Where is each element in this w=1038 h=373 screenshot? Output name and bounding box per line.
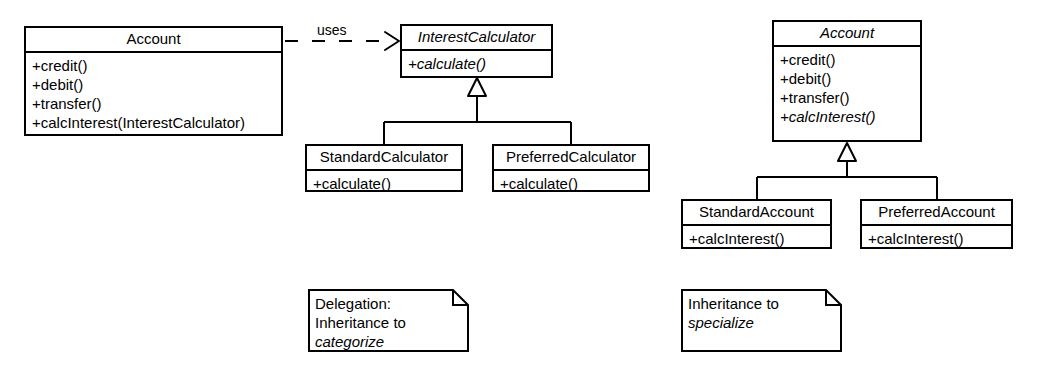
operation-transfer: +transfer() [780, 88, 915, 107]
operation-calcinterest: +calcInterest() [868, 229, 1006, 248]
generalization-hollow-triangle [838, 143, 856, 161]
class-box-account-inheritance[interactable]: Account +credit() +debit() +transfer() +… [772, 20, 922, 142]
generalization-calculators [384, 78, 571, 144]
dependency-open-arrowhead [385, 32, 399, 50]
note-delegation[interactable]: Delegation: Inheritance to categorize [308, 289, 469, 352]
generalization-hollow-triangle [468, 78, 486, 96]
operation-credit: +credit() [780, 50, 915, 69]
operation-transfer: +transfer() [32, 94, 276, 113]
generalization-accounts [757, 143, 937, 200]
note-line-1: Inheritance to [688, 294, 834, 313]
class-box-interestcalculator[interactable]: InterestCalculator +calculate() [400, 24, 553, 78]
note-line-2: specialize [688, 313, 834, 332]
class-name-preferredaccount: PreferredAccount [862, 201, 1011, 226]
operation-calcinterest: +calcInterest() [780, 107, 915, 126]
note-inheritance[interactable]: Inheritance to specialize [681, 289, 842, 352]
note-line-3: categorize [315, 332, 461, 351]
class-box-standardcalculator[interactable]: StandardCalculator +calculate() [305, 144, 463, 192]
class-box-account-delegation[interactable]: Account +credit() +debit() +transfer() +… [24, 26, 283, 136]
class-operations-standardcalculator: +calculate() [307, 171, 461, 197]
class-operations-account: +credit() +debit() +transfer() +calcInte… [774, 47, 920, 130]
operation-debit: +debit() [780, 69, 915, 88]
operation-credit: +credit() [32, 56, 276, 75]
class-operations-standardaccount: +calcInterest() [683, 226, 830, 252]
class-name-preferredcalculator: PreferredCalculator [494, 146, 648, 171]
note-line-1: Delegation: [315, 294, 461, 313]
class-name-standardcalculator: StandardCalculator [307, 146, 461, 171]
class-operations-interestcalculator: +calculate() [402, 51, 551, 77]
operation-calcinterest: +calcInterest(InterestCalculator) [32, 113, 276, 132]
class-box-preferredcalculator[interactable]: PreferredCalculator +calculate() [492, 144, 650, 192]
operation-debit: +debit() [32, 75, 276, 94]
operation-calcinterest: +calcInterest() [689, 229, 825, 248]
class-name-account: Account [26, 28, 281, 53]
uml-diagram-canvas: Account +credit() +debit() +transfer() +… [0, 0, 1038, 373]
operation-calculate: +calculate() [500, 174, 643, 193]
edge-label-uses: uses [317, 22, 347, 38]
class-name-standardaccount: StandardAccount [683, 201, 830, 226]
class-box-standardaccount[interactable]: StandardAccount +calcInterest() [681, 199, 832, 249]
operation-calculate: +calculate() [408, 54, 546, 73]
operation-calculate: +calculate() [313, 174, 456, 193]
class-name-interestcalculator: InterestCalculator [402, 26, 551, 51]
note-line-2: Inheritance to [315, 313, 461, 332]
note-inheritance-text: Inheritance to specialize [681, 289, 842, 336]
note-delegation-text: Delegation: Inheritance to categorize [308, 289, 469, 355]
class-operations-preferredaccount: +calcInterest() [862, 226, 1011, 252]
class-box-preferredaccount[interactable]: PreferredAccount +calcInterest() [860, 199, 1013, 249]
class-name-account: Account [774, 22, 920, 47]
class-operations-preferredcalculator: +calculate() [494, 171, 648, 197]
class-operations-account: +credit() +debit() +transfer() +calcInte… [26, 53, 281, 136]
